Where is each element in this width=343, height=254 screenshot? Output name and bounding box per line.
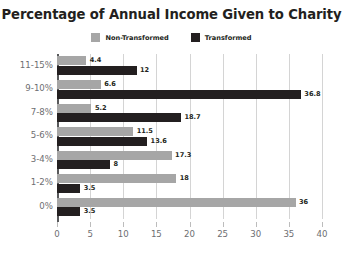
chart-title: Percentage of Annual Income Given to Cha… — [0, 7, 343, 22]
gridline — [322, 54, 323, 219]
bar-value-label: 4.4 — [90, 56, 102, 65]
bar[interactable] — [57, 104, 91, 113]
x-axis-tick — [190, 222, 191, 227]
bar[interactable] — [57, 160, 110, 169]
legend-entry[interactable]: Transformed — [191, 33, 252, 42]
bar-group: 11.513.6 — [57, 125, 322, 149]
plot-area: 4.4126.636.85.218.711.513.617.38183.5363… — [57, 54, 322, 219]
y-axis-label: 3-4% — [1, 154, 53, 164]
legend-swatch-icon — [191, 33, 200, 42]
x-axis-tick-label: 15 — [151, 229, 162, 239]
bar-value-label: 36.8 — [304, 90, 320, 99]
bar[interactable] — [57, 137, 147, 146]
x-axis-tick-label: 20 — [184, 229, 195, 239]
x-axis-tick — [123, 222, 124, 227]
bar-value-label: 18 — [180, 174, 189, 183]
x-axis-tick — [223, 222, 224, 227]
y-axis-label: 1-2% — [1, 177, 53, 187]
bar-value-label: 36 — [299, 198, 308, 207]
x-axis-tick-label: 10 — [118, 229, 129, 239]
x-axis-tick — [256, 222, 257, 227]
x-axis-tick — [57, 222, 58, 227]
bar[interactable] — [57, 56, 86, 65]
legend-entry[interactable]: Non-Transformed — [91, 33, 168, 42]
bar-group: 363.5 — [57, 195, 322, 219]
legend-label: Transformed — [205, 34, 252, 42]
chart-container: Percentage of Annual Income Given to Cha… — [0, 0, 343, 254]
x-axis-tick-label: 35 — [283, 229, 294, 239]
bar[interactable] — [57, 90, 301, 99]
legend-swatch-icon — [91, 33, 100, 42]
x-axis-tick-label: 5 — [87, 229, 92, 239]
x-axis-tick — [289, 222, 290, 227]
bar-value-label: 3.5 — [84, 207, 96, 216]
chart-legend: Non-TransformedTransformed — [0, 33, 343, 42]
x-axis-tick-label: 25 — [217, 229, 228, 239]
x-axis-tick-label: 40 — [317, 229, 328, 239]
x-axis-tick-label: 0 — [54, 229, 59, 239]
bar-value-label: 12 — [140, 66, 149, 75]
x-axis: 0510152025303540 — [57, 222, 322, 246]
legend-label: Non-Transformed — [105, 34, 168, 42]
bar-value-label: 3.5 — [84, 184, 96, 193]
bar[interactable] — [57, 66, 137, 75]
x-axis-tick-label: 30 — [250, 229, 261, 239]
bar-group: 4.412 — [57, 54, 322, 78]
bar-value-label: 11.5 — [137, 127, 153, 136]
bar[interactable] — [57, 151, 172, 160]
y-axis-label: 11-15% — [1, 60, 53, 70]
bar-value-label: 17.3 — [175, 151, 191, 160]
bar-group: 5.218.7 — [57, 101, 322, 125]
bar-value-label: 8 — [114, 160, 119, 169]
bar[interactable] — [57, 127, 133, 136]
y-axis-label: 9-10% — [1, 83, 53, 93]
bar-value-label: 18.7 — [184, 113, 200, 122]
bar[interactable] — [57, 207, 80, 216]
bar-value-label: 5.2 — [95, 104, 107, 113]
bar-group: 17.38 — [57, 148, 322, 172]
bar-value-label: 6.6 — [104, 80, 116, 89]
bar-group: 183.5 — [57, 172, 322, 196]
y-axis-label: 0% — [1, 201, 53, 211]
x-axis-tick — [322, 222, 323, 227]
y-axis-category-labels: 11-15%9-10%7-8%5-6%3-4%1-2%0% — [0, 54, 53, 219]
bar-value-label: 13.6 — [151, 137, 167, 146]
y-axis-label: 7-8% — [1, 107, 53, 117]
x-axis-tick — [156, 222, 157, 227]
bar-group: 6.636.8 — [57, 78, 322, 102]
bar[interactable] — [57, 174, 176, 183]
y-axis-label: 5-6% — [1, 130, 53, 140]
bar[interactable] — [57, 198, 296, 207]
bar[interactable] — [57, 113, 181, 122]
bar[interactable] — [57, 184, 80, 193]
bar[interactable] — [57, 80, 101, 89]
x-axis-tick — [90, 222, 91, 227]
